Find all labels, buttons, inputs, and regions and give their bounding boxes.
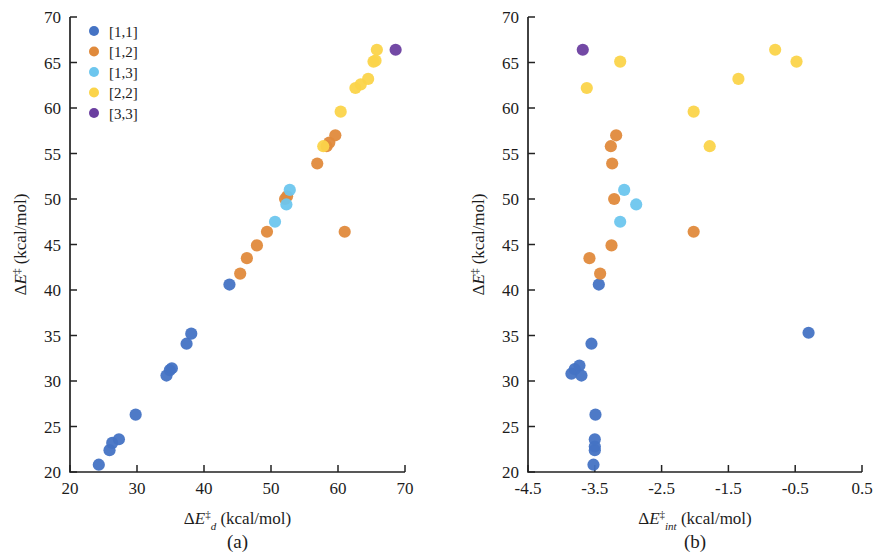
data-point [790, 55, 802, 67]
legend-label: [1,3] [109, 65, 138, 81]
y-tick-label: 50 [502, 190, 519, 209]
data-point [311, 157, 323, 169]
data-point [317, 140, 329, 152]
data-point [166, 362, 178, 374]
data-point [589, 433, 601, 445]
x-tick-label: 20 [62, 479, 79, 498]
data-point [610, 129, 622, 141]
x-tick-label: 0.5 [851, 479, 872, 498]
x-tick-label: 70 [397, 479, 414, 498]
series-13 [614, 184, 642, 228]
data-point [618, 184, 630, 196]
data-point [589, 409, 601, 421]
data-point [223, 278, 235, 290]
x-tick-label: 40 [196, 479, 213, 498]
y-tick-label: 45 [44, 236, 61, 255]
series-11 [565, 278, 814, 470]
y-tick-label: 55 [44, 145, 61, 164]
y-tick-label: 25 [502, 418, 519, 437]
data-point [769, 44, 781, 56]
svg-text:ΔE‡d (kcal/mol): ΔE‡d (kcal/mol) [184, 508, 291, 532]
data-points-layer [565, 44, 814, 471]
x-axis-title: ΔE‡int (kcal/mol) [638, 508, 752, 532]
x-tick-label: -0.5 [782, 479, 809, 498]
y-tick-label: 40 [502, 281, 519, 300]
legend-item[interactable]: [3,3] [89, 106, 138, 122]
legend-marker [89, 88, 99, 98]
legend-item[interactable]: [1,3] [89, 65, 138, 81]
data-point [605, 140, 617, 152]
series-22 [317, 44, 383, 153]
y-tick-label: 30 [502, 372, 519, 391]
legend-marker [89, 108, 99, 118]
y-tick-label: 65 [502, 54, 519, 73]
data-point [630, 198, 642, 210]
data-point [802, 327, 814, 339]
legend-marker [89, 67, 99, 77]
legend-label: [1,2] [109, 44, 138, 60]
data-point [593, 278, 605, 290]
data-point [335, 106, 347, 118]
legend-label: [1,1] [109, 24, 138, 40]
legend-item[interactable]: [2,2] [89, 85, 138, 101]
y-tick-label: 55 [502, 145, 519, 164]
series-13 [269, 184, 296, 228]
x-tick-label: -3.5 [581, 479, 608, 498]
x-axis-ticks: 203040506070 [62, 465, 414, 498]
y-tick-label: 60 [44, 99, 61, 118]
x-tick-label: -1.5 [715, 479, 742, 498]
legend-item[interactable]: [1,2] [89, 44, 138, 60]
x-axis-ticks: -4.5-3.5-2.5-1.5-0.50.5 [515, 465, 873, 498]
y-tick-label: 70 [502, 8, 519, 27]
y-tick-label: 40 [44, 281, 61, 300]
data-point [329, 129, 341, 141]
y-tick-label: 45 [502, 236, 519, 255]
data-point [284, 184, 296, 196]
data-point [575, 369, 587, 381]
svg-text:ΔE‡ (kcal/mol): ΔE‡ (kcal/mol) [468, 194, 488, 296]
data-point [594, 268, 606, 280]
legend-label: [2,2] [109, 85, 138, 101]
y-axis-ticks: 2025303540455055606570 [502, 8, 535, 482]
panel-label: (b) [684, 531, 706, 553]
data-point [261, 226, 273, 238]
x-tick-label: 50 [263, 479, 280, 498]
data-point [608, 193, 620, 205]
x-tick-label: -2.5 [648, 479, 675, 498]
y-tick-label: 20 [502, 463, 519, 482]
data-point [241, 252, 253, 264]
data-point [606, 157, 618, 169]
series-11 [93, 278, 236, 470]
data-point [93, 459, 105, 471]
legend: [1,1][1,2][1,3][2,2][3,3] [89, 24, 138, 122]
panel-a: 2030405060702025303540455055606570ΔE‡d (… [0, 0, 440, 560]
panel-b: -4.5-3.5-2.5-1.5-0.50.520253035404550556… [440, 0, 879, 560]
data-point [581, 82, 593, 94]
data-point [605, 239, 617, 251]
y-tick-label: 70 [44, 8, 61, 27]
data-point [614, 216, 626, 228]
data-point [113, 433, 125, 445]
legend-item[interactable]: [1,1] [89, 24, 138, 40]
data-points-layer [93, 44, 402, 471]
data-point [234, 268, 246, 280]
data-point [280, 198, 292, 210]
x-tick-label: 30 [129, 479, 146, 498]
figure-container: 2030405060702025303540455055606570ΔE‡d (… [0, 0, 879, 560]
data-point [269, 216, 281, 228]
data-point [688, 106, 700, 118]
legend-marker [89, 47, 99, 57]
data-point [585, 338, 597, 350]
data-point [130, 409, 142, 421]
svg-text:ΔE‡int (kcal/mol): ΔE‡int (kcal/mol) [638, 508, 752, 532]
axis-spines [528, 17, 862, 472]
series-33 [577, 44, 589, 56]
data-point [369, 55, 381, 67]
y-tick-label: 20 [44, 463, 61, 482]
data-point [704, 140, 716, 152]
legend-marker [89, 26, 99, 36]
data-point [362, 73, 374, 85]
y-axis-title: ΔE‡ (kcal/mol) [10, 194, 30, 296]
series-33 [390, 44, 402, 56]
data-point [732, 73, 744, 85]
